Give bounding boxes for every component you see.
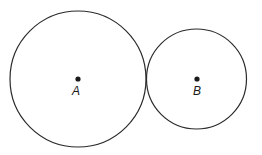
label-b: B [193,84,201,98]
center-point-b [194,76,199,81]
tangent-circles-diagram: A B [0,0,262,155]
center-point-a [75,76,80,81]
label-a: A [71,84,80,98]
